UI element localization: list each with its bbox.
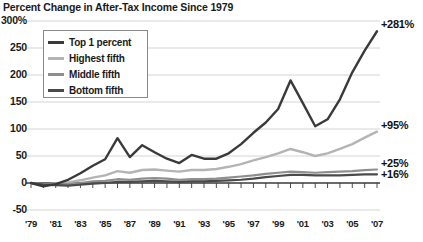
x-axis-tick-label: '07 [363,218,391,229]
legend-item-middle-fifth[interactable]: Middle fifth [48,66,120,82]
y-axis-tick-label: 300% [0,14,27,26]
legend-item-label: Middle fifth [69,69,120,80]
end-label-top-1-percent: +281% [381,18,414,30]
legend-item-label: Bottom fifth [69,85,123,96]
legend-item-label: Highest fifth [69,53,125,64]
y-axis-tick-label: 50 [0,149,27,161]
y-axis-tick-label: 150 [0,95,27,107]
legend-color-swatch [48,57,64,60]
legend-item-label: Top 1 percent [69,37,131,48]
legend-color-swatch [48,41,64,44]
legend-item-top-1-percent[interactable]: Top 1 percent [48,34,131,50]
y-axis-tick-label: 100 [0,122,27,134]
end-label-bottom-fifth: +16% [381,168,408,180]
legend-item-highest-fifth[interactable]: Highest fifth [48,50,125,66]
y-axis-tick-label: 200 [0,68,27,80]
y-axis-tick-label: -50 [0,203,27,215]
chart-container: Percent Change in After-Tax Income Since… [0,0,423,242]
y-axis-tick-label: 0 [0,176,27,188]
end-label-middle-fifth: +25% [381,157,408,169]
legend-color-swatch [48,73,64,76]
legend-item-bottom-fifth[interactable]: Bottom fifth [48,82,123,98]
end-label-highest-fifth: +95% [381,119,408,131]
legend-color-swatch [48,89,64,92]
y-axis-tick-label: 250 [0,41,27,53]
chart-legend: Top 1 percentHighest fifthMiddle fifthBo… [43,30,148,98]
